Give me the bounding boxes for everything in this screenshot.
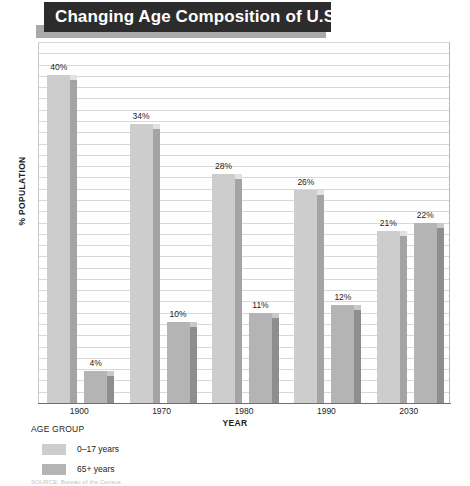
bar-top-shading	[400, 231, 407, 236]
bar-1990-young: 26%	[294, 190, 317, 404]
x-tick-1970: 1970	[120, 406, 202, 416]
bar-2030-old: 22%	[414, 223, 437, 404]
x-tick-2030: 2030	[368, 406, 450, 416]
bar-1980-old: 11%	[249, 313, 272, 404]
bar-1970-old: 10%	[167, 322, 190, 404]
bar-value-label: 40%	[47, 62, 70, 72]
bar-value-label: 26%	[294, 177, 317, 187]
bar-value-label: 34%	[130, 111, 153, 121]
bar-face	[212, 174, 235, 404]
x-tick-1980: 1980	[203, 406, 285, 416]
bar-side-shading	[400, 231, 407, 404]
bar-side-shading	[235, 174, 242, 404]
bar-face	[249, 313, 272, 404]
chart-legend: AGE GROUP 0–17 years 65+ years	[31, 424, 231, 479]
bar-top-shading	[272, 313, 279, 318]
bar-1900-young: 40%	[47, 75, 70, 404]
bar-side-shading	[272, 313, 279, 404]
x-tick-1990: 1990	[285, 406, 367, 416]
legend-swatch-icon-young	[42, 444, 66, 455]
bar-top-shading	[153, 124, 160, 129]
bar-value-label: 12%	[331, 292, 354, 302]
chart-x-axis-line	[38, 403, 451, 404]
bar-top-shading	[235, 174, 242, 179]
y-axis-label: % POPULATION	[17, 136, 27, 246]
bar-side-shading	[437, 223, 444, 404]
bar-face	[414, 223, 437, 404]
legend-swatch-icon-old	[42, 464, 66, 475]
bar-group-2030: 21%22%	[377, 42, 437, 404]
legend-item-young: 0–17 years	[31, 439, 231, 459]
bar-side-shading	[317, 190, 324, 404]
bar-side-shading	[354, 305, 361, 404]
bar-value-label: 10%	[167, 309, 190, 319]
bar-1980-young: 28%	[212, 174, 235, 404]
bar-top-shading	[70, 75, 77, 80]
x-axis-tick-labels: 19001970198019902030	[38, 406, 450, 420]
bar-group-1970: 34%10%	[130, 42, 190, 404]
bar-group-1990: 26%12%	[294, 42, 354, 404]
legend-label-young: 0–17 years	[77, 444, 119, 454]
bar-top-shading	[190, 322, 197, 327]
bar-top-shading	[317, 190, 324, 195]
bar-1970-young: 34%	[130, 124, 153, 404]
legend-item-old: 65+ years	[31, 459, 231, 479]
x-tick-1900: 1900	[38, 406, 120, 416]
bar-2030-young: 21%	[377, 231, 400, 404]
bar-side-shading	[70, 75, 77, 404]
bar-value-label: 4%	[84, 358, 107, 368]
title-banner: Changing Age Composition of U.S.	[44, 2, 331, 32]
bar-face	[130, 124, 153, 404]
bar-group-1900: 40%4%	[47, 42, 107, 404]
bar-side-shading	[153, 124, 160, 404]
bar-top-shading	[437, 223, 444, 228]
bar-1900-old: 4%	[84, 371, 107, 404]
bar-value-label: 22%	[414, 210, 437, 220]
page-title: Changing Age Composition of U.S.	[44, 7, 340, 27]
bar-top-shading	[354, 305, 361, 310]
bar-value-label: 28%	[212, 161, 235, 171]
source-note: SOURCE: Bureau of the Census	[31, 479, 121, 485]
bar-face	[167, 322, 190, 404]
bar-face	[377, 231, 400, 404]
bar-face	[294, 190, 317, 404]
bar-top-shading	[107, 371, 114, 376]
bar-face	[331, 305, 354, 404]
legend-label-old: 65+ years	[77, 464, 115, 474]
bar-1990-old: 12%	[331, 305, 354, 404]
bar-face	[84, 371, 107, 404]
bar-value-label: 11%	[249, 300, 272, 310]
bar-value-label: 21%	[377, 218, 400, 228]
bar-side-shading	[190, 322, 197, 404]
bar-face	[47, 75, 70, 404]
bar-group-1980: 28%11%	[212, 42, 272, 404]
chart-bars-layer: 40%4%34%10%28%11%26%12%21%22%	[38, 42, 450, 404]
legend-heading: AGE GROUP	[31, 424, 231, 434]
